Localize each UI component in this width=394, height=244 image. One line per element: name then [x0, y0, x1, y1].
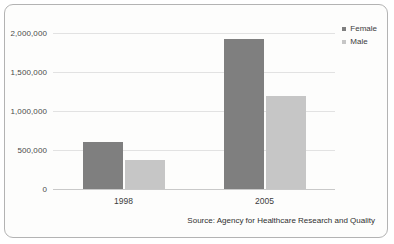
x-axis-label-1998: 1998	[114, 196, 133, 206]
y-axis-tick-label: 2,000,000	[11, 29, 48, 38]
bar-female-1998[interactable]	[83, 142, 123, 189]
chart-legend: Female Male	[342, 25, 377, 46]
legend-item-female[interactable]: Female	[342, 25, 377, 33]
gridline: 1,500,000	[53, 72, 335, 73]
y-axis-tick-label: 500,000	[17, 146, 47, 155]
gridline: 0	[53, 189, 335, 190]
y-axis-tick-label: 0	[42, 185, 47, 194]
bar-male-1998[interactable]	[125, 160, 165, 189]
source-note: Source: Agency for Healthcare Research a…	[187, 216, 375, 225]
legend-swatch-female	[342, 27, 346, 31]
y-axis-tick-label: 1,500,000	[11, 68, 48, 77]
legend-label-male: Male	[350, 38, 367, 46]
legend-swatch-male	[342, 40, 346, 44]
x-axis-label-2005: 2005	[255, 196, 274, 206]
chart-card: 0500,0001,000,0001,500,0002,000,000 1998…	[4, 4, 388, 238]
plot-area: 0500,0001,000,0001,500,0002,000,000 1998…	[53, 33, 335, 189]
bar-female-2005[interactable]	[224, 39, 264, 189]
legend-label-female: Female	[350, 25, 377, 33]
y-axis-tick-label: 1,000,000	[11, 107, 48, 116]
bar-male-2005[interactable]	[266, 96, 306, 189]
legend-item-male[interactable]: Male	[342, 38, 377, 46]
gridline: 2,000,000	[53, 33, 335, 34]
